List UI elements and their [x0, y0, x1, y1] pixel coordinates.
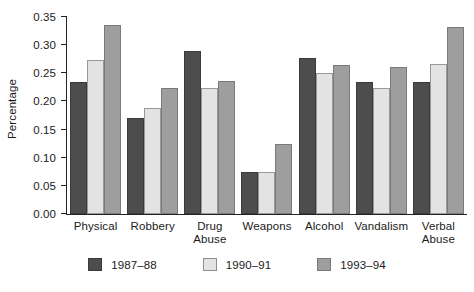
- legend-item: 1993–94: [317, 258, 385, 271]
- bar: [373, 88, 390, 214]
- bar: [316, 73, 333, 214]
- bar-group: Weapons: [238, 17, 295, 214]
- legend-swatch: [203, 258, 217, 271]
- bar: [299, 58, 316, 214]
- y-axis-tick-label: 0.00: [33, 208, 56, 220]
- bar: [218, 81, 235, 214]
- bar-group: Alcohol: [296, 17, 353, 214]
- bar-group: Verbal Abuse: [410, 17, 467, 214]
- bar: [333, 65, 350, 214]
- y-axis-tick-label: 0.05: [33, 180, 56, 192]
- bar: [356, 82, 373, 214]
- bar: [184, 51, 201, 214]
- bar: [161, 88, 178, 214]
- legend-label: 1987–88: [111, 259, 156, 271]
- bar: [413, 82, 430, 214]
- y-axis-tick-label: 0.25: [33, 67, 56, 79]
- y-axis-tick-label: 0.15: [33, 124, 56, 136]
- bar-group-bars: [124, 17, 181, 214]
- legend-swatch: [317, 258, 331, 271]
- x-axis-category-label: Weapons: [242, 220, 291, 233]
- bar: [390, 67, 407, 214]
- legend-label: 1990–91: [226, 259, 271, 271]
- bar: [144, 108, 161, 214]
- y-axis-tick-label: 0.35: [33, 11, 56, 23]
- bar: [70, 82, 87, 214]
- x-axis-category-label: Drug Abuse: [193, 220, 226, 246]
- legend-swatch: [88, 258, 102, 271]
- x-axis-category-label: Verbal Abuse: [422, 220, 455, 246]
- x-axis-category-label: Alcohol: [305, 220, 343, 233]
- y-axis-tick-label: 0.10: [33, 152, 56, 164]
- y-axis-tick-label: 0.30: [33, 39, 56, 51]
- y-axis-tick-label: 0.20: [33, 95, 56, 107]
- bar-group: Vandalism: [353, 17, 410, 214]
- bar: [275, 144, 292, 214]
- x-axis-category-label: Robbery: [131, 220, 175, 233]
- bar-group: Robbery: [124, 17, 181, 214]
- bar-group-bars: [353, 17, 410, 214]
- bar-group-bars: [181, 17, 238, 214]
- bar: [104, 25, 121, 214]
- bar-group-bars: [296, 17, 353, 214]
- bar-chart: Percentage 0.000.050.100.150.200.250.300…: [0, 0, 474, 292]
- bar: [241, 172, 258, 214]
- legend-item: 1987–88: [88, 258, 156, 271]
- bar-group: Drug Abuse: [181, 17, 238, 214]
- bar-group: Physical: [67, 17, 124, 214]
- bar: [87, 60, 104, 214]
- bar-group-bars: [67, 17, 124, 214]
- plot-area: 0.000.050.100.150.200.250.300.35 Physica…: [66, 17, 467, 215]
- legend-label: 1993–94: [340, 259, 385, 271]
- y-axis-title: Percentage: [0, 0, 24, 218]
- bar: [258, 172, 275, 214]
- bar-group-bars: [238, 17, 295, 214]
- bar: [447, 27, 464, 214]
- y-axis-title-text: Percentage: [6, 79, 18, 139]
- bar-group-bars: [410, 17, 467, 214]
- bar: [201, 88, 218, 214]
- bar: [430, 64, 447, 214]
- legend: 1987–881990–911993–94: [0, 258, 474, 271]
- legend-item: 1990–91: [203, 258, 271, 271]
- bar: [127, 118, 144, 214]
- x-axis-category-label: Vandalism: [354, 220, 408, 233]
- x-axis-category-label: Physical: [74, 220, 118, 233]
